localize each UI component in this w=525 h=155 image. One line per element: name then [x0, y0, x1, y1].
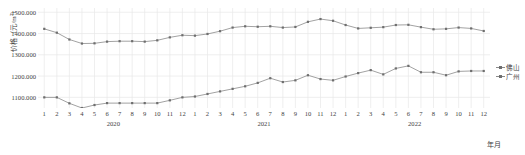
data-point-marker [282, 81, 284, 83]
data-point-marker [232, 26, 234, 28]
data-point-marker [345, 75, 347, 77]
data-point-marker [407, 24, 409, 26]
x-axis-year-label: 2021 [244, 120, 284, 128]
data-point-marker [244, 25, 246, 27]
data-point-marker [382, 26, 384, 28]
legend-marker [499, 66, 502, 69]
y-axis-tick-label: 1200.000 [0, 73, 36, 80]
data-point-marker [294, 79, 296, 81]
legend-label: 佛山 [506, 64, 520, 72]
legend-item: 佛山 [496, 63, 525, 72]
price-trend-line-chart: 价格（元/m2） 1100.0001200.0001300.0001400.00… [0, 0, 525, 155]
data-point-marker [282, 26, 284, 28]
plot-svg [38, 8, 490, 108]
data-point-marker [93, 104, 95, 106]
data-point-marker [68, 102, 70, 104]
data-point-marker [119, 102, 121, 104]
data-point-marker [156, 102, 158, 104]
data-point-marker [244, 85, 246, 87]
y-axis-tick-label: 1500.000 [0, 9, 36, 16]
x-axis-year-label: 2020 [93, 120, 133, 128]
data-point-marker [483, 70, 485, 72]
data-point-marker [458, 26, 460, 28]
data-point-marker [319, 78, 321, 80]
data-point-marker [106, 41, 108, 43]
data-point-marker [56, 96, 58, 98]
data-point-marker [81, 107, 83, 108]
data-point-marker [194, 35, 196, 37]
y-axis-tick-labels: 1100.0001200.0001300.0001400.0001500.000 [0, 8, 36, 108]
x-axis-year-labels: 202020212022 [38, 120, 490, 132]
data-point-marker [345, 24, 347, 26]
data-point-marker [219, 30, 221, 32]
data-point-marker [119, 40, 121, 42]
y-axis-tick-label: 1400.000 [0, 30, 36, 37]
data-point-marker [232, 88, 234, 90]
data-point-marker [382, 73, 384, 75]
chart-legend: 佛山广州 [496, 63, 525, 81]
data-point-marker [106, 102, 108, 104]
data-point-marker [294, 26, 296, 28]
data-point-marker [332, 20, 334, 22]
data-point-marker [307, 74, 309, 76]
series-line-2 [44, 66, 483, 108]
data-point-marker [269, 77, 271, 79]
data-point-marker [169, 36, 171, 38]
data-point-marker [432, 28, 434, 30]
data-point-marker [156, 39, 158, 41]
series-line-1 [44, 19, 483, 43]
data-point-marker [81, 42, 83, 44]
data-point-marker [181, 34, 183, 36]
x-axis-unit-label: 年月 [487, 141, 501, 149]
data-point-marker [395, 67, 397, 69]
data-point-marker [43, 96, 45, 98]
x-axis-tick-label: 12 [476, 110, 492, 118]
data-point-marker [131, 102, 133, 104]
legend-marker [499, 75, 502, 78]
x-axis-year-label: 2022 [395, 120, 435, 128]
data-point-marker [307, 21, 309, 23]
data-point-marker [357, 72, 359, 74]
legend-item: 广州 [496, 72, 525, 81]
data-point-marker [206, 93, 208, 95]
data-point-marker [407, 65, 409, 67]
data-point-marker [68, 38, 70, 40]
data-point-marker [420, 71, 422, 73]
legend-line-marker-icon [496, 63, 505, 72]
data-point-marker [445, 74, 447, 76]
data-point-marker [332, 79, 334, 81]
data-point-marker [219, 90, 221, 92]
data-point-marker [181, 96, 183, 98]
legend-label: 广州 [506, 73, 520, 81]
data-point-marker [483, 30, 485, 32]
data-point-marker [144, 41, 146, 43]
data-point-marker [370, 69, 372, 71]
data-point-marker [257, 82, 259, 84]
data-point-marker [458, 70, 460, 72]
data-point-marker [420, 26, 422, 28]
data-point-marker [370, 27, 372, 29]
plot-area [38, 8, 490, 108]
data-point-marker [470, 27, 472, 29]
data-point-marker [395, 24, 397, 26]
data-point-marker [470, 70, 472, 72]
data-point-marker [56, 32, 58, 34]
data-point-marker [445, 28, 447, 30]
data-point-marker [194, 95, 196, 97]
legend-line-marker-icon [496, 72, 505, 81]
data-point-marker [257, 26, 259, 28]
data-point-marker [131, 40, 133, 42]
y-axis-tick-label: 1300.000 [0, 51, 36, 58]
data-point-marker [432, 71, 434, 73]
data-point-marker [144, 102, 146, 104]
data-point-marker [319, 18, 321, 20]
data-point-marker [357, 27, 359, 29]
data-point-marker [269, 25, 271, 27]
y-axis-tick-label: 1100.000 [0, 94, 36, 101]
data-point-marker [43, 28, 45, 30]
data-point-marker [169, 99, 171, 101]
data-point-marker [206, 33, 208, 35]
data-point-marker [93, 42, 95, 44]
